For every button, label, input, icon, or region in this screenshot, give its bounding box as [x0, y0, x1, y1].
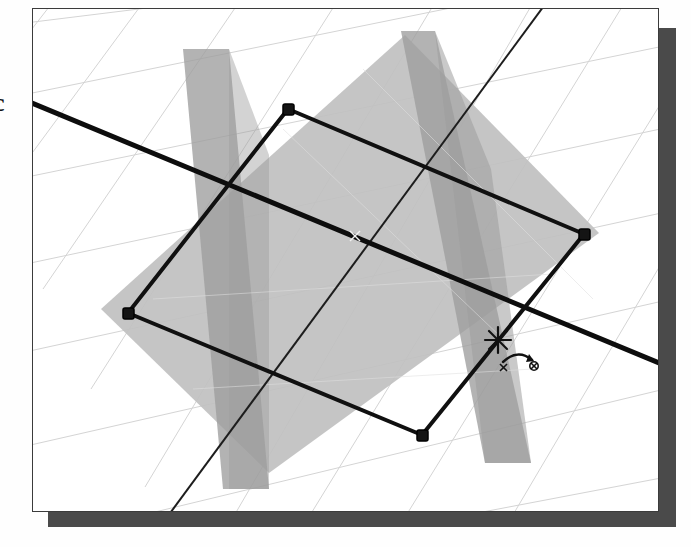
vertical-plane-left-wide: [229, 49, 269, 489]
scene-svg: [33, 9, 658, 511]
plane-group: [101, 31, 599, 489]
node-handle-left[interactable]: [123, 308, 134, 319]
canvas-shadow-right: [659, 28, 676, 527]
canvas-shadow-bottom: [48, 512, 676, 527]
cropped-left-glyph: c: [0, 90, 7, 116]
viewport-canvas[interactable]: [32, 8, 659, 512]
node-handle-bottom[interactable]: [417, 430, 428, 441]
node-handle-right[interactable]: [579, 229, 590, 240]
node-handle-top[interactable]: [283, 104, 294, 115]
screenshot-root: c: [0, 0, 691, 547]
